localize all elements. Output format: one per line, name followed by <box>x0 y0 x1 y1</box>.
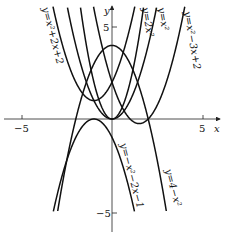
curve-y-x-2-2x-2 <box>53 7 135 101</box>
label-x2-2x-2: y=x²+2x+2 <box>40 5 66 66</box>
label-4-x2: y=4−x² <box>163 167 184 208</box>
x-tick-label-neg5: −5 <box>14 123 29 134</box>
label-x2: y=x² <box>156 5 171 31</box>
label-x2-3x-2: y=x²−3x+2 <box>182 9 203 70</box>
x-tick-label-5: 5 <box>199 123 205 134</box>
y-tick-label-5: 5 <box>103 22 109 33</box>
x-axis-label: x <box>214 123 220 134</box>
parabola-family-diagram: −5 5 x 5 −5 y y=x²+2x+2 y=2x² y=x² y=x²−… <box>0 0 229 246</box>
curves-group <box>53 7 185 212</box>
y-axis-label: y <box>103 5 110 16</box>
label-2x2: y=2x² <box>140 5 156 37</box>
y-tick-label-neg5: −5 <box>96 208 111 219</box>
plot-canvas: −5 5 x 5 −5 y y=x²+2x+2 y=2x² y=x² y=x²−… <box>0 0 229 246</box>
